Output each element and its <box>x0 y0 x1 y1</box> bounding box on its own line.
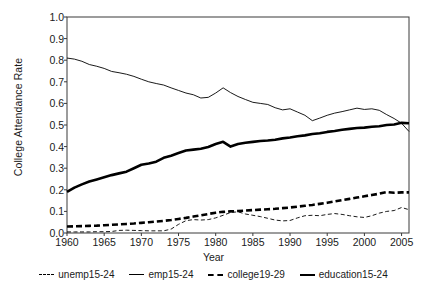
y-axis-tick-labels: 0.00.10.20.30.40.50.60.70.80.91.0 <box>30 0 64 260</box>
y-axis-title-text: College Attendance Rate <box>12 57 24 175</box>
x-axis-tick-labels: 1960196519701975198019851990199520002005 <box>0 236 427 252</box>
legend-item-college19-29[interactable]: college19-29 <box>208 269 284 280</box>
y-axis-tick-label: 0.4 <box>49 141 64 153</box>
x-axis-tick-label: 1960 <box>55 236 78 248</box>
x-axis-title: Year <box>0 251 427 263</box>
legend-label: unemp15-24 <box>58 269 114 280</box>
line-chart: College Attendance Rate 0.00.10.20.30.40… <box>0 0 427 298</box>
plot-frame <box>67 17 409 233</box>
x-axis-tick-label: 1990 <box>278 236 301 248</box>
legend-swatch-icon <box>208 274 223 276</box>
x-axis-tick-label: 1995 <box>316 236 339 248</box>
x-axis-tick-label: 1980 <box>204 236 227 248</box>
y-axis-tick-label: 0.8 <box>49 54 64 66</box>
x-axis-tick-label: 1975 <box>167 236 190 248</box>
x-axis-tick-label: 1970 <box>130 236 153 248</box>
legend-item-emp15-24[interactable]: emp15-24 <box>129 269 193 280</box>
y-axis-tick-label: 0.7 <box>49 76 64 88</box>
y-axis-title: College Attendance Rate <box>6 0 30 233</box>
y-axis-tick-label: 0.9 <box>49 33 64 45</box>
legend-item-unemp15-24[interactable]: unemp15-24 <box>39 269 114 280</box>
x-axis-title-text: Year <box>203 251 224 263</box>
y-axis-tick-label: 0.6 <box>49 97 64 109</box>
chart-legend: unemp15-24emp15-24college19-29education1… <box>0 269 427 280</box>
x-axis-tick-label: 2005 <box>390 236 413 248</box>
legend-swatch-icon <box>300 274 315 276</box>
y-axis-tick-label: 0.3 <box>49 162 64 174</box>
x-axis-tick-label: 1965 <box>92 236 115 248</box>
legend-label: emp15-24 <box>148 269 193 280</box>
y-axis-tick-label: 1.0 <box>49 11 64 23</box>
y-axis-tick-label: 0.2 <box>49 184 64 196</box>
x-axis-tick-label: 2000 <box>353 236 376 248</box>
legend-label: education15-24 <box>319 269 388 280</box>
legend-label: college19-29 <box>227 269 284 280</box>
legend-swatch-icon <box>129 274 144 275</box>
x-axis-tick-label: 1985 <box>241 236 264 248</box>
y-axis-tick-label: 0.5 <box>49 119 64 131</box>
y-axis-tick-label: 0.1 <box>49 205 64 217</box>
legend-item-education15-24[interactable]: education15-24 <box>300 269 388 280</box>
legend-swatch-icon <box>39 274 54 275</box>
